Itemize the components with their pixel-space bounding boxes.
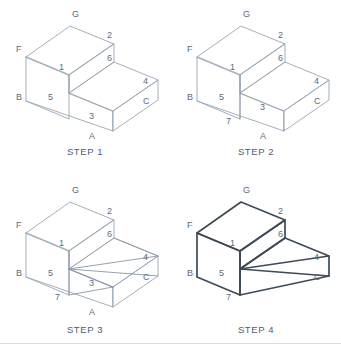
- panel-step-3: G 2 F 6 1 4 B 5 C 3 7 A STEP 3: [0, 176, 170, 352]
- vertex-label: 2: [107, 206, 112, 216]
- vertex-label: F: [16, 44, 22, 54]
- vertex-label: 5: [48, 268, 53, 278]
- vertex-label: A: [89, 131, 95, 141]
- vertex-label: G: [72, 9, 79, 19]
- vertex-label: 3: [89, 278, 94, 288]
- step-caption: STEP 3: [0, 324, 170, 335]
- vertex-label: 6: [107, 53, 112, 63]
- vertex-label: F: [16, 220, 22, 230]
- panel-step-1: G 2 F 6 1 4 B 5 C 3 A STEP 1: [0, 0, 170, 176]
- vertex-label: 6: [278, 229, 283, 239]
- step-caption: STEP 2: [171, 146, 341, 157]
- step-3-vertex-labels: G 2 F 6 1 4 B 5 C 3 7 A: [16, 185, 150, 317]
- vertex-label: 4: [314, 252, 319, 262]
- vertex-label: F: [187, 220, 193, 230]
- vertex-label: G: [243, 185, 250, 195]
- vertex-label: G: [243, 9, 250, 19]
- panel-step-2: G 2 F 6 1 4 B 5 C 3 7 A STEP 2: [171, 0, 341, 176]
- vertex-label: 7: [226, 116, 231, 126]
- panel-step-4: G 2 F 6 1 4 B 5 C 7 STEP 4: [171, 176, 341, 352]
- vertex-label: F: [187, 44, 193, 54]
- vertex-label: C: [314, 272, 321, 282]
- vertex-label: C: [143, 96, 150, 106]
- vertex-label: 6: [278, 53, 283, 63]
- vertex-label: G: [72, 185, 79, 195]
- step-caption: STEP 4: [171, 324, 341, 335]
- vertex-label: 7: [226, 292, 231, 302]
- vertex-label: 1: [59, 238, 64, 248]
- step-4-vertex-labels: G 2 F 6 1 4 B 5 C 7: [187, 185, 321, 302]
- vertex-label: 5: [219, 268, 224, 278]
- step-1-vertex-labels: G 2 F 6 1 4 B 5 C 3 A: [16, 9, 150, 141]
- vertex-label: A: [89, 307, 95, 317]
- step-2-vertex-labels: G 2 F 6 1 4 B 5 C 3 7 A: [187, 9, 321, 141]
- vertex-label: 3: [89, 111, 94, 121]
- vertex-label: 5: [48, 92, 53, 102]
- vertex-label: C: [143, 272, 150, 282]
- vertex-label: 4: [143, 252, 148, 262]
- vertex-label: B: [16, 268, 22, 278]
- step-caption: STEP 1: [0, 146, 170, 157]
- vertex-label: 2: [107, 30, 112, 40]
- vertex-label: 2: [278, 206, 283, 216]
- step-2-edges: [197, 26, 329, 131]
- vertex-label: 1: [230, 238, 235, 248]
- vertex-label: 7: [55, 292, 60, 302]
- vertex-label: 5: [219, 92, 224, 102]
- vertex-label: 1: [230, 62, 235, 72]
- vertex-label: 2: [278, 30, 283, 40]
- vertex-label: 3: [260, 102, 265, 112]
- vertex-label: B: [16, 92, 22, 102]
- vertex-label: B: [187, 268, 193, 278]
- vertex-label: 6: [107, 229, 112, 239]
- vertex-label: 4: [143, 76, 148, 86]
- vertex-label: A: [260, 131, 266, 141]
- vertex-label: B: [187, 92, 193, 102]
- bottom-divider: [0, 343, 341, 344]
- vertex-label: 1: [59, 62, 64, 72]
- vertex-label: 4: [314, 76, 319, 86]
- figure-sheet: G 2 F 6 1 4 B 5 C 3 A STEP 1: [0, 0, 341, 352]
- step-4-edges: [197, 202, 329, 295]
- vertex-label: C: [314, 96, 321, 106]
